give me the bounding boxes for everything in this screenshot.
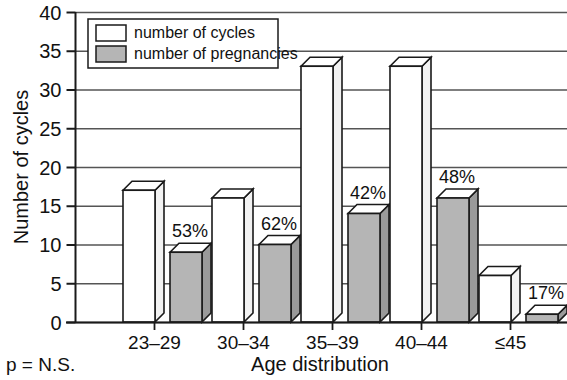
y-tick-label: 40	[39, 2, 61, 24]
bar-front-face	[479, 276, 511, 323]
y-tick-label: 15	[39, 195, 61, 217]
bar-cycles	[212, 189, 253, 322]
bar-side-face	[333, 57, 342, 322]
bar-pregnancies	[348, 205, 389, 323]
percent-label: 48%	[439, 167, 475, 187]
bar-front-face	[348, 214, 380, 323]
bar-side-face	[469, 189, 478, 322]
category-label: 30–34	[217, 332, 270, 353]
bar-front-face	[259, 245, 291, 323]
bar-front-face	[170, 252, 202, 322]
bar-side-face	[380, 205, 389, 323]
category-label: 35–39	[306, 332, 359, 353]
bar-chart-canvas: 051015202530354023–2930–3435–3940–44≤455…	[0, 0, 567, 380]
bar-side-face	[244, 189, 253, 322]
bar-pregnancies	[259, 236, 300, 323]
y-tick-label: 10	[39, 234, 61, 256]
bar-front-face	[301, 66, 333, 322]
bar-side-face	[422, 57, 431, 322]
percent-label: 62%	[261, 214, 297, 234]
category-label: ≤45	[495, 332, 527, 353]
bar-cycles	[301, 57, 342, 322]
legend-label-cycles: number of cycles	[134, 24, 255, 41]
bar-cycles	[479, 267, 520, 323]
bar-front-face	[212, 198, 244, 322]
chart-figure: 051015202530354023–2930–3435–3940–44≤455…	[0, 0, 567, 380]
percent-label: 53%	[172, 221, 208, 241]
p-value-annotation: p = N.S.	[6, 354, 75, 375]
category-label: 40–44	[395, 332, 448, 353]
percent-label: 42%	[350, 183, 386, 203]
bar-pregnancies	[526, 305, 567, 322]
bar-front-face	[437, 198, 469, 322]
y-tick-label: 0	[50, 312, 61, 334]
bar-front-face	[390, 66, 422, 322]
y-axis-title: Number of cycles	[10, 90, 32, 245]
y-tick-label: 30	[39, 79, 61, 101]
category-label: 23–29	[128, 332, 181, 353]
legend-swatch-cycles	[96, 25, 126, 41]
y-tick-label: 20	[39, 157, 61, 179]
bar-front-face	[123, 190, 155, 322]
y-tick-label: 35	[39, 40, 61, 62]
bar-cycles	[123, 181, 164, 322]
legend-label-pregnancies: number of pregnancies	[134, 45, 298, 62]
chart-legend: number of cycles number of pregnancies	[88, 19, 298, 68]
legend-swatch-pregnancies	[96, 46, 126, 62]
y-tick-label: 5	[50, 273, 61, 295]
bar-pregnancies	[437, 189, 478, 322]
bar-cycles	[390, 57, 431, 322]
y-tick-label: 25	[39, 118, 61, 140]
bar-side-face	[155, 181, 164, 322]
percent-label: 17%	[528, 283, 564, 303]
bar-side-face	[291, 236, 300, 323]
bar-front-face	[526, 314, 558, 322]
bar-pregnancies	[170, 243, 211, 322]
x-axis-title: Age distribution	[251, 353, 389, 375]
bar-side-face	[202, 243, 211, 322]
